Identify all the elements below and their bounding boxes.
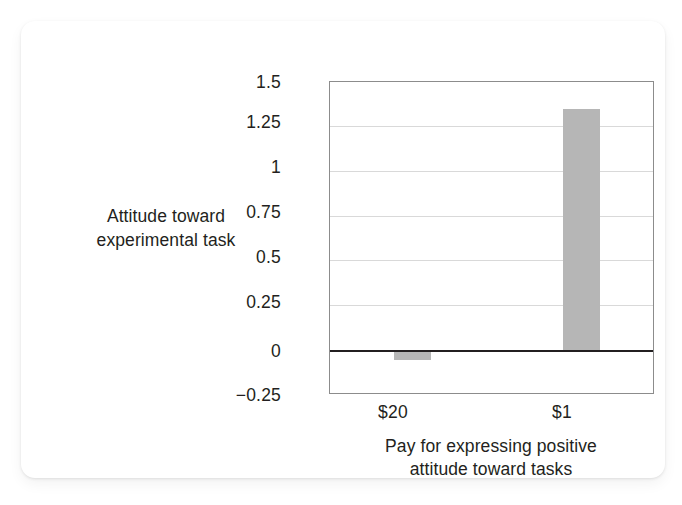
- x-tick-label-20-dollars: $20: [333, 402, 453, 422]
- gridline-1: [330, 171, 653, 172]
- figure-card: Attitude toward experimental task 1.5 1.…: [21, 21, 665, 478]
- gridline-0-5: [330, 260, 653, 261]
- x-tick-label-1-dollar: $1: [502, 402, 622, 422]
- y-tick-label-neg-0-25: −0.25: [191, 387, 281, 405]
- plot-area: [329, 81, 654, 394]
- x-axis-title-line-1: Pay for expressing positive: [296, 435, 682, 458]
- gridline-zero: [330, 350, 653, 352]
- x-axis-title: Pay for expressing positive attitude tow…: [296, 435, 682, 481]
- gridline-0-25: [330, 305, 653, 306]
- y-tick-label-0-5: 0.5: [191, 249, 281, 267]
- x-axis-title-line-2: attitude toward tasks: [296, 458, 682, 481]
- y-tick-label-0-25: 0.25: [191, 294, 281, 312]
- gridline-1-25: [330, 126, 653, 127]
- y-tick-label-1-5: 1.5: [191, 74, 281, 92]
- y-tick-label-1-25: 1.25: [191, 114, 281, 132]
- y-tick-label-1: 1: [191, 159, 281, 177]
- y-tick-label-0-75: 0.75: [191, 204, 281, 222]
- bar-20-dollars[interactable]: [394, 352, 431, 360]
- y-tick-label-0: 0: [191, 343, 281, 361]
- bar-1-dollar[interactable]: [563, 109, 600, 350]
- gridline-0-75: [330, 216, 653, 217]
